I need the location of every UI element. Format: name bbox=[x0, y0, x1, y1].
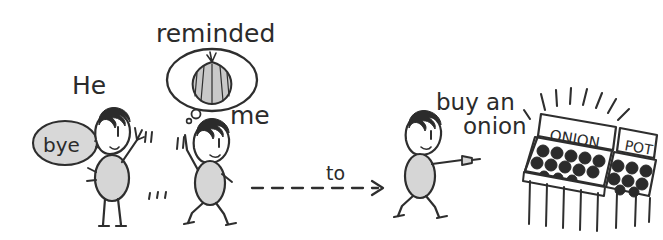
pointing-finger bbox=[472, 159, 480, 160]
thinking-person-torso bbox=[195, 161, 225, 205]
word-me-text: me bbox=[230, 101, 270, 130]
stall-leg-6 bbox=[616, 193, 617, 228]
waving-person-legs bbox=[103, 199, 121, 225]
word-reminded-text: reminded bbox=[156, 19, 275, 48]
waving-person-torso bbox=[95, 155, 129, 201]
thought-dot-small bbox=[187, 119, 192, 124]
dashed-arrow: to bbox=[252, 162, 383, 195]
pointing-person-arm bbox=[432, 160, 462, 164]
ground-dots-left bbox=[149, 192, 166, 199]
quote-mark-a bbox=[145, 132, 152, 142]
pointing-person-hand bbox=[462, 156, 472, 165]
sparkle-line-4 bbox=[570, 88, 571, 104]
quote-mark-b bbox=[177, 137, 184, 149]
comic-scene: He bye bbox=[0, 0, 663, 240]
sparkle-line-2 bbox=[541, 94, 545, 110]
produce-item bbox=[622, 175, 634, 187]
produce-item bbox=[551, 147, 563, 159]
thinking-person-legs bbox=[188, 203, 228, 224]
pointing-person-legs bbox=[398, 196, 439, 217]
word-buy-an-text: buy an bbox=[436, 89, 515, 115]
waving-person-hand bbox=[135, 128, 144, 140]
produce-item bbox=[629, 187, 639, 197]
word-me: me bbox=[230, 101, 270, 130]
produce-item bbox=[587, 166, 599, 178]
produce-item bbox=[545, 159, 557, 171]
produce-item bbox=[608, 173, 620, 185]
word-he-text: He bbox=[72, 71, 106, 100]
word-reminded: reminded bbox=[156, 19, 275, 48]
stall-leg-5 bbox=[597, 193, 598, 231]
produce-item bbox=[612, 160, 624, 172]
sparkle-line-7 bbox=[608, 99, 616, 113]
word-to-text: to bbox=[326, 162, 345, 184]
produce-item bbox=[626, 162, 638, 174]
produce-item bbox=[573, 164, 585, 176]
stall-leg-1 bbox=[529, 181, 530, 224]
market-stall: ONION POT bbox=[523, 88, 657, 231]
stall-leg-8 bbox=[649, 198, 650, 222]
waving-person bbox=[87, 107, 144, 226]
word-he: He bbox=[72, 71, 106, 100]
sparkle-line-5 bbox=[583, 89, 587, 105]
sparkle-line-8 bbox=[618, 109, 629, 120]
stall-bin-potatoes bbox=[606, 152, 656, 197]
pointing-person-torso bbox=[405, 154, 435, 198]
produce-item bbox=[579, 152, 591, 164]
phrase-buy-an-onion: buy an onion bbox=[436, 89, 527, 139]
thought-dot-large bbox=[192, 110, 201, 119]
speech-bubble-bye: bye bbox=[33, 121, 104, 165]
produce-item bbox=[640, 165, 652, 177]
stall-leg-4 bbox=[580, 190, 581, 230]
stall-leg-2 bbox=[546, 184, 547, 226]
produce-item bbox=[559, 161, 571, 173]
motion-marks-left bbox=[145, 132, 184, 149]
stall-leg-3 bbox=[563, 187, 564, 228]
stall-leg-7 bbox=[635, 196, 636, 226]
walking-person-thinking bbox=[184, 118, 236, 225]
produce-item bbox=[537, 145, 549, 157]
word-onion-text: onion bbox=[463, 113, 527, 139]
sparkle-line-3 bbox=[556, 90, 557, 106]
produce-item bbox=[593, 155, 605, 167]
speech-bubble-text: bye bbox=[43, 133, 80, 157]
produce-item bbox=[531, 157, 543, 169]
produce-item bbox=[565, 150, 577, 162]
ground-dot-marks bbox=[149, 192, 166, 199]
sparkle-line-6 bbox=[596, 93, 602, 108]
